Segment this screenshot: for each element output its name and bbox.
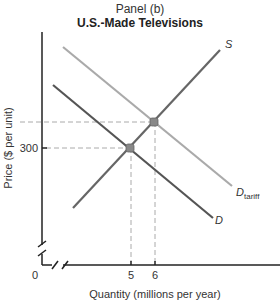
demand-tariff-label: Dtariff	[236, 186, 260, 201]
demand-label: D	[215, 214, 223, 226]
y-tick-label-300: 300	[20, 142, 38, 154]
x-tick-label-6: 6	[152, 269, 158, 281]
demand-tariff-label-sub: tariff	[244, 192, 260, 201]
x-tick-label-5: 5	[128, 269, 134, 281]
axes	[38, 32, 280, 269]
x-axis-label: Quantity (millions per year)	[89, 288, 220, 300]
equilibrium-point-tariff	[150, 118, 158, 126]
x-axis-break-mark	[52, 261, 58, 269]
equilibrium-point-original	[126, 144, 134, 152]
demand-tariff-curve	[63, 47, 232, 186]
supply-label: S	[225, 38, 233, 50]
y-axis-label: Price ($ per unit)	[2, 107, 14, 188]
demand-tariff-label-main: D	[236, 186, 244, 198]
origin-label: 0	[32, 269, 38, 281]
chart-plot: 300 0 5 6 Quantity (millions per year) P…	[0, 0, 280, 303]
